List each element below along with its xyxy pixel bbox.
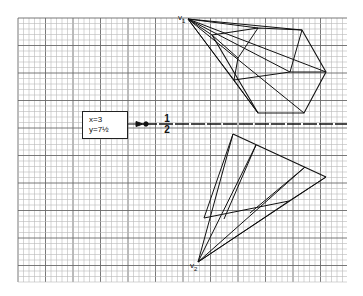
coord-x: x=3 [89,115,127,125]
coordinate-box: x=3 y=7½ [82,111,128,139]
bottom-pyramid [198,134,326,262]
top-pyramid [188,19,326,113]
fraction-label: 1 2 [162,113,172,135]
coord-y: y=7½ [89,125,127,135]
apex-label-v1: v1 [178,14,185,24]
point-dot [144,122,148,126]
grid [18,18,347,282]
fraction-denominator: 2 [162,124,172,135]
apex-label-v2: v2 [190,262,197,272]
apex-v2-subscript: 2 [194,266,197,272]
apex-v1-subscript: 1 [182,18,185,24]
fraction-numerator: 1 [162,113,172,124]
graph-paper-diagram [0,0,363,296]
